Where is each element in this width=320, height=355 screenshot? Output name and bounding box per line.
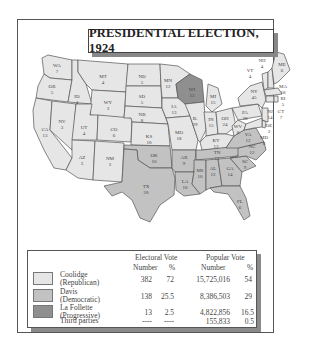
svg-text:PA: PA	[242, 110, 248, 115]
electoral-vote-header: Electoral Vote	[135, 253, 177, 262]
svg-text:15: 15	[209, 123, 215, 128]
svg-text:12: 12	[250, 150, 256, 155]
svg-text:13: 13	[190, 93, 196, 98]
svg-text:FL: FL	[237, 199, 243, 204]
legend-inner: Electoral Vote Popular Vote Number % Num…	[27, 250, 257, 328]
svg-text:7: 7	[280, 115, 283, 120]
ev-number: 138	[134, 292, 152, 301]
svg-text:20: 20	[144, 190, 150, 195]
svg-text:10: 10	[198, 174, 204, 179]
svg-text:GA: GA	[226, 166, 234, 171]
svg-text:CO: CO	[111, 127, 118, 132]
svg-text:MD: MD	[260, 135, 268, 140]
pv-percent: 54	[238, 275, 252, 284]
svg-text:WI: WI	[189, 87, 196, 92]
svg-text:10: 10	[183, 185, 189, 190]
svg-text:NY: NY	[250, 89, 258, 94]
svg-text:13: 13	[172, 110, 178, 115]
svg-text:10: 10	[147, 140, 153, 145]
svg-text:IA: IA	[171, 104, 177, 109]
svg-text:AR: AR	[181, 155, 189, 160]
svg-text:8: 8	[263, 141, 266, 146]
state-FL	[210, 186, 250, 220]
svg-text:10: 10	[152, 159, 158, 164]
democratic-swatch	[33, 289, 53, 302]
svg-text:KY: KY	[212, 138, 220, 143]
svg-text:13: 13	[214, 144, 220, 149]
svg-text:AL: AL	[210, 166, 217, 171]
svg-text:MS: MS	[196, 168, 203, 173]
svg-text:IN: IN	[208, 117, 214, 122]
svg-text:OK: OK	[150, 153, 158, 158]
svg-text:MI: MI	[210, 94, 216, 99]
svg-text:13: 13	[43, 133, 49, 138]
svg-text:45: 45	[252, 95, 258, 100]
svg-text:MT: MT	[99, 74, 107, 79]
svg-text:CA: CA	[42, 127, 49, 132]
svg-text:TN: TN	[214, 150, 221, 155]
svg-text:KS: KS	[146, 134, 153, 139]
ev-percent: 25.5	[158, 292, 174, 301]
state-MA	[264, 88, 282, 96]
legend-row-davis: Davis (Democratic) 138 25.5 8,386,503 29	[28, 288, 258, 304]
svg-text:5: 5	[282, 102, 285, 107]
ev-percent: 2.5	[158, 308, 174, 317]
ev-number: 13	[134, 308, 152, 317]
pv-number: 8,386,503	[186, 292, 230, 301]
svg-text:TX: TX	[143, 184, 150, 189]
state-RI	[274, 96, 278, 102]
ev-number: ----	[134, 317, 152, 326]
ev-percent: ----	[158, 317, 174, 326]
republican-swatch	[33, 272, 53, 285]
map-title: PRESIDENTIAL ELECTION, 1924	[88, 29, 274, 53]
svg-text:12: 12	[211, 172, 217, 177]
svg-text:VA: VA	[245, 132, 252, 137]
popular-vote-header: Popular Vote	[206, 253, 245, 262]
svg-text:SD: SD	[139, 94, 146, 99]
svg-text:4: 4	[249, 74, 252, 79]
svg-text:NJ: NJ	[267, 109, 273, 114]
svg-text:WY: WY	[104, 100, 113, 105]
candidate-name: Third parties	[60, 317, 99, 325]
svg-text:CT: CT	[278, 109, 284, 114]
ev-percent: 72	[160, 275, 174, 284]
pv-number: 155,833	[186, 317, 230, 326]
svg-text:12: 12	[166, 84, 172, 89]
svg-text:RI: RI	[281, 96, 286, 101]
svg-text:OR: OR	[49, 84, 57, 89]
svg-text:15: 15	[211, 100, 217, 105]
svg-text:IL: IL	[193, 116, 198, 121]
svg-text:12: 12	[246, 138, 252, 143]
svg-text:VT: VT	[247, 68, 254, 73]
title-box: PRESIDENTIAL ELECTION, 1924	[88, 29, 278, 57]
svg-text:NB: NB	[139, 112, 147, 117]
legend-row-coolidge: Coolidge (Republican) 382 72 15,725,016 …	[28, 271, 258, 287]
pv-percent: 0.5	[238, 317, 254, 326]
svg-text:LA: LA	[182, 179, 189, 184]
ev-number: 382	[134, 275, 152, 284]
svg-text:14: 14	[268, 115, 274, 120]
svg-text:MA: MA	[279, 84, 287, 89]
pv-percent: 29	[238, 292, 252, 301]
svg-text:ME: ME	[278, 62, 286, 67]
svg-text:29: 29	[193, 122, 199, 127]
svg-text:ID: ID	[74, 94, 80, 99]
svg-text:SC: SC	[242, 159, 249, 164]
state-CT	[266, 96, 274, 102]
svg-text:NV: NV	[58, 119, 66, 124]
svg-text:DE: DE	[266, 123, 273, 128]
svg-text:MO: MO	[175, 130, 183, 135]
candidate-party: (Republican)	[60, 279, 99, 287]
svg-text:NC: NC	[249, 144, 257, 149]
svg-text:AZ: AZ	[79, 155, 86, 160]
svg-text:ND: ND	[138, 74, 146, 79]
svg-text:WA: WA	[53, 63, 61, 68]
svg-text:MN: MN	[164, 78, 172, 83]
svg-text:18: 18	[281, 90, 287, 95]
svg-text:WV: WV	[234, 124, 243, 129]
svg-text:12: 12	[215, 156, 221, 161]
svg-text:14: 14	[228, 172, 234, 177]
legend-table: Electoral Vote Popular Vote Number % Num…	[27, 250, 261, 332]
pv-number: 15,725,016	[186, 275, 230, 284]
svg-text:OH: OH	[221, 116, 229, 121]
